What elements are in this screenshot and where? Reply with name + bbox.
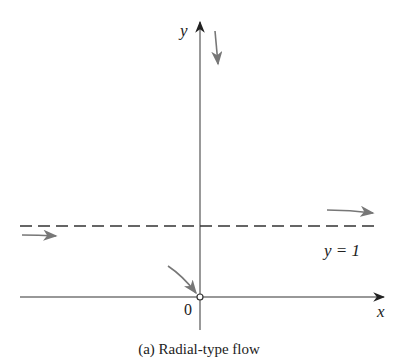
arrow-to-origin	[168, 266, 196, 293]
asymptote-label: y = 1	[324, 242, 360, 259]
figure-caption: (a) Radial-type flow	[0, 341, 398, 358]
arrow-right-top	[327, 210, 373, 213]
arrow-left-right	[22, 235, 56, 236]
open-point-origin	[197, 294, 203, 300]
arrow-top-down	[215, 31, 218, 64]
x-axis-label: x	[377, 303, 385, 320]
y-axis-label: y	[180, 22, 188, 39]
asymptote-label-text: y = 1	[324, 241, 360, 260]
origin-label: 0	[184, 302, 192, 318]
